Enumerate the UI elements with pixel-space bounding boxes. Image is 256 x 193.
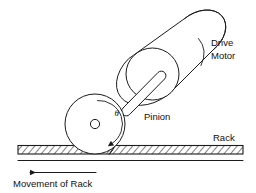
theta-label: θ — [115, 108, 120, 118]
rack-label: Rack — [213, 132, 235, 143]
movement-of-rack-label: Movement of Rack — [13, 178, 92, 189]
motor-front-face — [126, 48, 179, 100]
rack-bar — [18, 146, 243, 155]
drive-motor-label-line1: Drive — [211, 37, 233, 48]
diagram-canvas: θ Drive Motor Pinion Rack Movement of Ra… — [0, 0, 256, 193]
rack-graphic — [18, 146, 243, 161]
pinion-graphic: θ — [65, 94, 125, 155]
drive-motor-graphic — [116, 10, 225, 105]
drive-motor-label-line2: Motor — [211, 50, 235, 61]
pinion-hub — [90, 119, 99, 128]
pinion-label: Pinion — [144, 111, 170, 122]
rack-and-pinion-diagram: θ Drive Motor Pinion Rack Movement of Ra… — [0, 0, 256, 193]
